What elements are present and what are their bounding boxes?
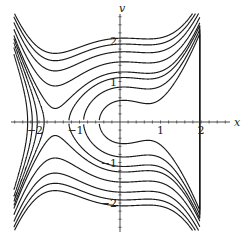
v-tick-label: −2 xyxy=(101,197,117,210)
axis-labels: −2−11221−1−2xv xyxy=(27,2,241,210)
v-tick-label: 1 xyxy=(110,76,117,89)
x-tick-label: −2 xyxy=(27,124,43,137)
x-tick-label: 1 xyxy=(157,124,164,137)
x-tick-label: 2 xyxy=(198,124,205,137)
through-level-curve-upper xyxy=(14,14,199,71)
v-tick-label: 2 xyxy=(110,35,117,48)
through-level-curve-upper xyxy=(15,14,193,54)
x-axis-label: x xyxy=(234,116,241,129)
phase-portrait-plot: −2−11221−1−2xv xyxy=(0,0,245,241)
v-tick-label: −1 xyxy=(101,157,117,170)
phase-portrait-figure: −2−11221−1−2xv xyxy=(0,0,245,241)
v-axis-label: v xyxy=(119,2,126,15)
through-level-curve-upper xyxy=(14,17,200,86)
x-tick-label: −1 xyxy=(67,124,83,137)
